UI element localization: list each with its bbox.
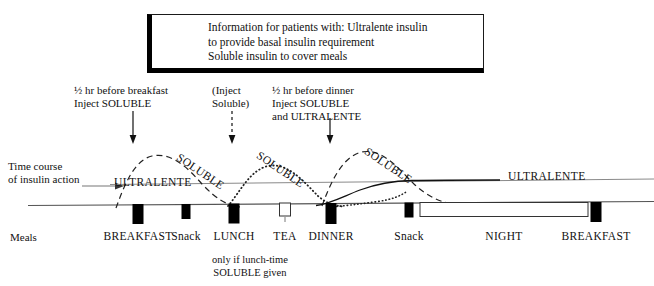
meal-bar-snack-evening: [405, 203, 414, 218]
inject-lunch-line-2: Soluble): [212, 97, 249, 110]
meal-name-tea-3: TEA: [273, 230, 296, 242]
inject-dinner-line-1: ½ hr before dinner: [272, 84, 361, 97]
inject-lunch-line-1: (Inject: [212, 84, 249, 97]
meal-bar-snack-morning: [182, 204, 191, 219]
meal-name-breakfast-7: BREAKFAST: [562, 230, 631, 242]
inject-dinner-line-3: and ULTRALENTE: [272, 110, 361, 123]
inject-lunch-label: (Inject Soluble): [212, 84, 249, 110]
soluble-residual-tail: [330, 192, 406, 207]
curve-label-ultralente-right: ULTRALENTE: [508, 170, 586, 182]
meal-name-snack-5: Snack: [394, 230, 424, 242]
time-course-label: Time course of insulin action: [8, 160, 80, 186]
meal-bar-lunch: [229, 204, 240, 224]
inject-breakfast-line-1: ½ hr before breakfast: [74, 84, 168, 97]
meal-name-dinner-4: DINNER: [308, 230, 353, 242]
meal-bar-breakfast-next: [591, 202, 602, 222]
inject-dinner-label: ½ hr before dinner Inject SOLUBLE and UL…: [272, 84, 361, 123]
info-line-2: to provide basal insulin requirement: [208, 35, 427, 50]
injection-arrow-lunch: [229, 111, 236, 144]
info-line-1: Information for patients with: Ultralent…: [208, 20, 427, 35]
info-line-3: Soluble insulin to cover meals: [208, 49, 427, 64]
meal-bar-breakfast: [133, 204, 144, 224]
information-box-text: Information for patients with: Ultralent…: [208, 20, 427, 64]
time-course-line-2: of insulin action: [8, 173, 80, 186]
meal-name-breakfast-0: BREAKFAST: [104, 230, 173, 242]
footnote-line-2: SOLUBLE given: [212, 267, 288, 280]
meal-name-lunch-2: LUNCH: [213, 230, 254, 242]
lunch-soluble-footnote: only if lunch-time SOLUBLE given: [212, 254, 288, 279]
meal-bar-dinner: [326, 203, 337, 224]
injection-arrow-breakfast: [130, 111, 137, 144]
meal-bar-night: [420, 203, 588, 217]
meal-name-snack-1: Snack: [171, 230, 201, 242]
meals-row-label: Meals: [10, 231, 37, 243]
meal-bar-tea: [280, 203, 291, 216]
insulin-time-course-diagram: Information for patients with: Ultralent…: [0, 0, 654, 286]
footnote-line-1: only if lunch-time: [212, 254, 288, 267]
meal-name-night-6: NIGHT: [485, 230, 522, 242]
information-box: Information for patients with: Ultralent…: [147, 14, 484, 73]
inject-breakfast-label: ½ hr before breakfast Inject SOLUBLE: [74, 84, 168, 110]
meal-bars: [133, 202, 602, 224]
time-course-line-1: Time course: [8, 160, 80, 173]
inject-dinner-line-2: Inject SOLUBLE: [272, 97, 361, 110]
curve-label-ultralente-left: ULTRALENTE: [114, 176, 192, 188]
inject-breakfast-line-2: Inject SOLUBLE: [74, 97, 168, 110]
